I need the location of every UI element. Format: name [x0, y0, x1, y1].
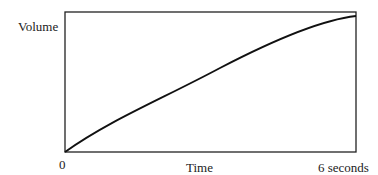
x-axis-label: Time: [186, 160, 213, 175]
x-tick-end: 6 seconds: [318, 160, 369, 175]
y-axis-label: Volume: [18, 19, 58, 35]
volume-curve: [65, 16, 356, 152]
x-tick-start: 0: [59, 157, 66, 173]
chart-frame: [65, 12, 356, 152]
